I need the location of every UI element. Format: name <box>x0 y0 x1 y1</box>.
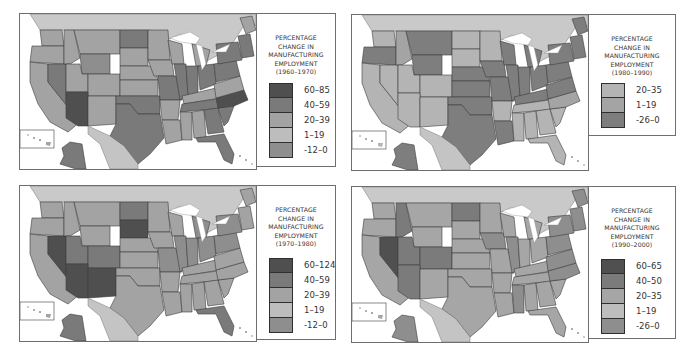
legend-swatch <box>601 289 625 304</box>
legend-swatch <box>601 304 625 319</box>
legend-swatch <box>269 273 293 288</box>
legend-swatch <box>269 143 293 158</box>
legend-title: PERCENTAGE CHANGE IN MANUFACTURING EMPLO… <box>589 35 675 78</box>
map-panel-1960-1970: PERCENTAGE CHANGE IN MANUFACTURING EMPLO… <box>0 0 340 175</box>
legend-swatch <box>601 274 625 289</box>
legend-1960-1970: PERCENTAGE CHANGE IN MANUFACTURING EMPLO… <box>256 13 336 167</box>
legend-1970-1980: PERCENTAGE CHANGE IN MANUFACTURING EMPLO… <box>256 185 336 340</box>
legend-1990-2000: PERCENTAGE CHANGE IN MANUFACTURING EMPLO… <box>588 186 676 339</box>
legend-swatch <box>601 113 625 128</box>
us-map-1990-2000 <box>351 186 589 343</box>
choropleth-1990-2000 <box>352 187 588 342</box>
legend-title: PERCENTAGE CHANGE IN MANUFACTURING EMPLO… <box>589 207 675 250</box>
us-map-1980-1990 <box>351 14 589 171</box>
choropleth-1970-1980 <box>20 186 256 341</box>
us-map-1960-1970 <box>19 13 257 170</box>
legend-title: PERCENTAGE CHANGE IN MANUFACTURING EMPLO… <box>257 34 335 77</box>
choropleth-1960-1970 <box>20 14 256 169</box>
map-panel-1970-1980: PERCENTAGE CHANGE IN MANUFACTURING EMPLO… <box>0 178 340 353</box>
us-map-1970-1980 <box>19 185 257 342</box>
legend-swatch <box>269 128 293 143</box>
legend-swatch <box>269 318 293 333</box>
legend-swatch <box>269 303 293 318</box>
legend-title: PERCENTAGE CHANGE IN MANUFACTURING EMPLO… <box>257 206 335 249</box>
map-panel-1990-2000: PERCENTAGE CHANGE IN MANUFACTURING EMPLO… <box>340 178 680 353</box>
map-panel-1980-1990: PERCENTAGE CHANGE IN MANUFACTURING EMPLO… <box>340 0 680 175</box>
legend-1980-1990: PERCENTAGE CHANGE IN MANUFACTURING EMPLO… <box>588 14 676 136</box>
legend-swatch <box>601 319 625 334</box>
legend-swatch <box>601 259 625 274</box>
legend-swatch <box>269 258 293 273</box>
legend-swatch <box>269 83 293 98</box>
legend-swatch <box>269 98 293 113</box>
legend-swatch <box>601 98 625 113</box>
legend-swatch <box>269 113 293 128</box>
choropleth-1980-1990 <box>352 15 588 170</box>
legend-swatch <box>601 83 625 98</box>
legend-swatch <box>269 288 293 303</box>
